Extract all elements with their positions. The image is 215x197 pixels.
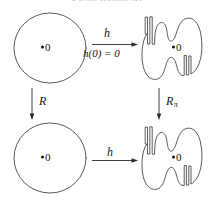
origin-dot (41, 46, 44, 49)
arrow-right-vertical (157, 88, 162, 120)
point-label-bottom-right: 0 (176, 152, 182, 163)
point-label-top-left: 0 (45, 42, 51, 53)
origin-dot (172, 46, 175, 49)
node-top-right-blob (142, 17, 202, 80)
arrow-right-label: Rπ (166, 95, 178, 109)
arrow-right-label-subscript: π (173, 100, 178, 109)
origin-dot (41, 156, 44, 159)
commutative-diagram: a cross-section; see (0, 0, 215, 197)
point-label-top-right: 0 (176, 42, 182, 53)
arrow-left-label: R (39, 95, 46, 107)
arrow-bottom-label: h (107, 146, 113, 158)
arrow-left-vertical (30, 88, 35, 120)
arrow-bottom-horizontal (92, 158, 138, 163)
node-bottom-right-blob (142, 127, 202, 190)
origin-dot (172, 156, 175, 159)
point-label-bottom-left: 0 (45, 152, 51, 163)
arrow-top-label-above: h (104, 27, 110, 39)
arrow-top-label-below: h(0) = 0 (83, 48, 120, 59)
